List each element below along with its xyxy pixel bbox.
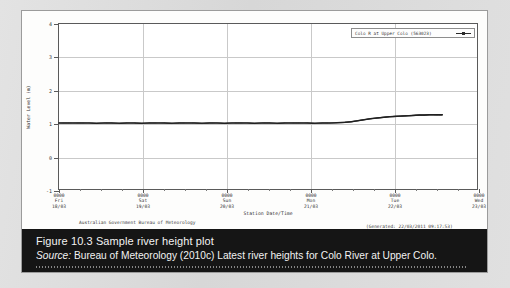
x-tick-minor [185, 189, 186, 191]
x-tick-minor [248, 189, 249, 191]
x-tick-label: 0000Sun20/03 [220, 193, 234, 209]
x-tick-minor [290, 189, 291, 191]
figure-panel: Water Level (m) -101234 0000Fri18/030000… [21, 10, 488, 273]
figure-source-line: Source: Bureau of Meteorology (2010c) La… [36, 249, 473, 263]
x-tick-label: 0000Tue22/03 [388, 193, 402, 209]
source-label: Source: [36, 250, 71, 261]
x-tick-minor [269, 189, 270, 191]
chart-legend: Colo R at Upper Colo (563023) [351, 28, 475, 38]
y-tick-label: 1 [49, 121, 52, 127]
legend-line-swatch [456, 32, 471, 35]
data-point-marker [441, 114, 442, 115]
x-axis-title: Station Date/Time [243, 211, 292, 216]
x-tick-minor [458, 189, 459, 191]
caption-dotted-rule [36, 266, 468, 268]
figure-caption-block: Figure 10.3 Sample river height plot Sou… [22, 229, 487, 272]
legend-entry-label: Colo R at Upper Colo (563023) [355, 31, 453, 36]
x-tick-minor [437, 189, 438, 191]
river-height-chart: Water Level (m) -101234 0000Fri18/030000… [22, 11, 487, 229]
agency-footer: Australian Government Bureau of Meteorol… [79, 220, 196, 225]
x-tick-label: 0000Wed23/03 [472, 193, 486, 209]
y-axis-title: Water Level (m) [26, 85, 31, 128]
x-tick-label: 0000Mon21/03 [304, 193, 318, 209]
x-tick-minor [101, 189, 102, 191]
y-tick-label: 4 [49, 21, 52, 27]
figure-caption-title: Figure 10.3 Sample river height plot [36, 234, 473, 248]
y-tick-label: 2 [49, 88, 52, 94]
x-tick-minor [416, 189, 417, 191]
y-tick-label: 3 [49, 54, 52, 60]
x-tick-minor [206, 189, 207, 191]
x-tick-minor [80, 189, 81, 191]
x-tick-label: 0000Fri18/03 [52, 193, 66, 209]
series-line-colo-river [59, 24, 477, 189]
x-tick-minor [164, 189, 165, 191]
source-text: Bureau of Meteorology (2010c) Latest riv… [71, 250, 437, 261]
plot-frame: -101234 0000Fri18/030000Sat19/030000Sun2… [58, 23, 478, 190]
x-tick-minor [374, 189, 375, 191]
x-tick-minor [122, 189, 123, 191]
x-tick-minor [353, 189, 354, 191]
x-tick-label: 0000Sat19/03 [136, 193, 150, 209]
y-tick-label: 0 [49, 155, 52, 161]
x-tick-minor [332, 189, 333, 191]
